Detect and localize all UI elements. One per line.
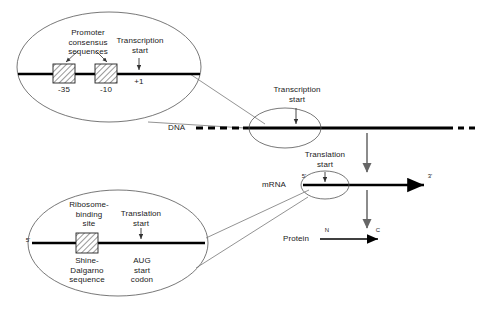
dna-label: DNA xyxy=(168,123,194,133)
minus35-box xyxy=(53,64,75,83)
shine-dalgarno-box xyxy=(76,233,98,253)
rbs-leader-line-upper xyxy=(206,190,309,238)
minus35-label: -35 xyxy=(50,85,78,95)
plus1-label: +1 xyxy=(126,77,152,87)
mrna-three-prime-label: 3' xyxy=(424,172,436,182)
rbs-leader-line-lower xyxy=(196,197,308,268)
aug-start-codon-label: AUG start codon xyxy=(119,256,165,285)
minus10-box xyxy=(95,64,117,83)
shine-dalgarno-label: Shine- Dalgarno sequence xyxy=(56,256,118,285)
rbs-translation-start-label: Translation start xyxy=(111,209,171,228)
mrna-five-prime-label: 5' xyxy=(298,172,310,182)
protein-n-terminus-label: N xyxy=(322,226,332,236)
rbs-five-prime-label: 5' xyxy=(22,236,34,246)
protein-c-terminus-label: C xyxy=(373,226,383,236)
mrna-label: mRNA xyxy=(262,180,298,190)
minus10-label: -10 xyxy=(92,85,120,95)
protein-label: Protein xyxy=(283,234,323,244)
promoter-leader-line-upper xyxy=(190,74,265,124)
mrna-translation-start-label: Translation start xyxy=(295,150,355,169)
dna-transcription-start-label: Transcription start xyxy=(266,85,328,104)
promoter-transcription-start-label: Transcription start xyxy=(110,36,170,55)
